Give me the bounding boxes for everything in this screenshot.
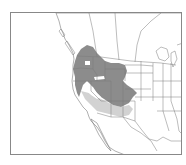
range-gap [85,61,90,65]
map-frame [10,12,182,155]
cut-off-caption [0,0,186,3]
range-map [11,13,182,155]
